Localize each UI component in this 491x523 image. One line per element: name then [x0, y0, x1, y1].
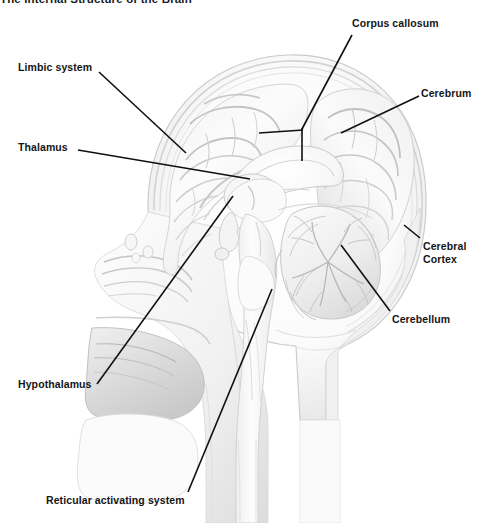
leader-line-corpus-callosum-branch: [259, 130, 303, 133]
label-hypothalamus: Hypothalamus: [18, 378, 92, 391]
leader-line-thalamus: [78, 150, 250, 179]
label-corpus-callosum: Corpus callosum: [352, 17, 439, 30]
leader-line-hypothalamus: [97, 196, 233, 384]
label-cerebrum: Cerebrum: [421, 87, 471, 100]
label-cerebellum: Cerebellum: [392, 313, 450, 326]
leader-line-reticular-activating-system: [188, 289, 272, 492]
leader-line-cerebral-cortex: [404, 225, 420, 238]
label-thalamus: Thalamus: [18, 141, 68, 154]
leader-line-limbic-system: [99, 72, 186, 153]
label-cerebral-cortex: Cerebral Cortex: [423, 240, 466, 265]
leader-line-cerebellum: [341, 245, 390, 311]
leader-lines: [0, 0, 491, 523]
label-reticular-activating-system: Reticular activating system: [46, 494, 185, 507]
label-limbic-system: Limbic system: [18, 61, 92, 74]
leader-line-corpus-callosum: [302, 35, 352, 129]
brain-anatomy-figure: The Internal Structure of the Brain: [0, 0, 491, 523]
leader-line-cerebrum: [341, 96, 419, 133]
